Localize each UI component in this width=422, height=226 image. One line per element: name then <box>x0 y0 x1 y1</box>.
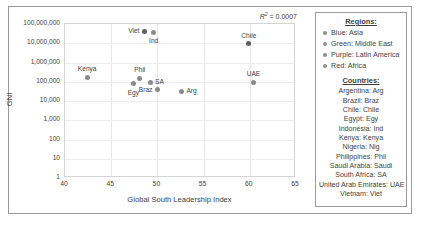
data-point[interactable] <box>142 29 147 34</box>
data-point-label: Arg <box>186 88 196 95</box>
gridline-horizontal <box>65 43 294 44</box>
y-tick-label: 100,000,000 <box>23 20 60 27</box>
y-tick-label: 100,000 <box>36 77 60 84</box>
scatter-chart: R2 = 0.0007 GNI 1101001,00010,000100,000… <box>9 7 305 213</box>
r-squared-annotation: R2 = 0.0007 <box>260 11 297 20</box>
legend-region-item: Green: Middle East <box>323 40 403 48</box>
legend-bullet-icon <box>323 42 327 46</box>
legend-country-item: Saudi Arabia: Saudi <box>319 162 403 171</box>
data-point-label: Ind <box>149 38 158 45</box>
legend-region-item: Purple: Latin America <box>323 51 403 59</box>
legend-country-item: South Africa: SA <box>319 171 403 180</box>
gridline-horizontal <box>65 63 294 64</box>
x-tick-label: 40 <box>60 181 68 188</box>
legend-region-item: Red: Africa <box>323 62 403 70</box>
y-tick-label: 1,000 <box>43 116 60 123</box>
y-axis-tick-labels: 1101001,00010,000100,0001,000,00010,000,… <box>9 23 60 177</box>
regions-heading: Regions: <box>319 17 403 26</box>
x-tick-label: 60 <box>245 181 253 188</box>
legend-region-label: Red: Africa <box>331 62 366 70</box>
legend-region-item: Blue: Asia <box>323 29 403 37</box>
legend-country-item: United Arab Emirates: UAE <box>319 181 403 190</box>
y-tick-label: 1,000,000 <box>31 58 60 65</box>
legend-region-label: Blue: Asia <box>331 29 363 37</box>
data-point[interactable] <box>179 89 184 94</box>
gridline-vertical <box>204 24 205 176</box>
countries-heading: Countries: <box>319 76 403 85</box>
data-point[interactable] <box>85 75 90 80</box>
plot-area: VietIndChileKenyaPhilSAEgyBrazArgUAE <box>64 23 295 177</box>
legend-bullet-icon <box>323 53 327 57</box>
x-tick-label: 65 <box>291 181 299 188</box>
legend-country-item: Kenya: Kenya <box>319 134 403 143</box>
gridline-vertical <box>157 24 158 176</box>
y-tick-label: 10 <box>53 154 60 161</box>
gridline-horizontal <box>65 120 294 121</box>
y-tick-label: 10,000 <box>40 97 60 104</box>
data-point-label: Kenya <box>78 66 97 73</box>
data-point[interactable] <box>131 81 136 86</box>
x-tick-label: 55 <box>199 181 207 188</box>
data-point-label: Chile <box>241 33 256 40</box>
y-tick-label: 100 <box>49 135 60 142</box>
countries-list: Argentina: ArgBrazil: BrazChile: ChileEg… <box>319 87 403 199</box>
data-point-label: Braz <box>139 87 153 94</box>
legend-region-label: Purple: Latin America <box>331 51 399 59</box>
regions-list: Blue: AsiaGreen: Middle EastPurple: Lati… <box>319 29 403 70</box>
x-tick-label: 50 <box>153 181 161 188</box>
data-point-label: Viet <box>128 28 139 35</box>
legend-country-item: Chile: Chile <box>319 106 403 115</box>
x-axis-tick-labels: 404550556065 <box>64 181 295 193</box>
data-point[interactable] <box>137 76 142 81</box>
legend-country-item: Argentina: Arg <box>319 87 403 96</box>
data-point[interactable] <box>251 80 256 85</box>
gridline-horizontal <box>65 140 294 141</box>
legend-country-item: Vietnam: Viet <box>319 190 403 199</box>
data-point[interactable] <box>151 30 156 35</box>
legend-country-item: Indonesia: Ind <box>319 125 403 134</box>
data-point-label: UAE <box>247 71 261 78</box>
data-point-label: SA <box>155 79 164 86</box>
data-point-label: Phil <box>134 67 145 74</box>
data-point-label: Egy <box>128 90 139 97</box>
legend-bullet-icon <box>323 64 327 68</box>
gridline-horizontal <box>65 159 294 160</box>
gridline-vertical <box>250 24 251 176</box>
y-tick-label: 10,000,000 <box>27 39 60 46</box>
gridline-horizontal <box>65 101 294 102</box>
gridline-vertical <box>111 24 112 176</box>
x-tick-label: 45 <box>106 181 114 188</box>
legend-country-item: Brazil: Braz <box>319 97 403 106</box>
legend-bullet-icon <box>323 31 327 35</box>
legend-country-item: Philippines: Phil <box>319 153 403 162</box>
figure-frame: R2 = 0.0007 GNI 1101001,00010,000100,000… <box>8 6 412 214</box>
gridline-horizontal <box>65 82 294 83</box>
x-axis-title: Global South Leadership Index <box>64 195 295 204</box>
legend-panel: Regions: Blue: AsiaGreen: Middle EastPur… <box>315 12 407 207</box>
legend-country-item: Egypt: Egy <box>319 115 403 124</box>
legend-region-label: Green: Middle East <box>331 40 393 48</box>
legend-country-item: Nigeria: Nig <box>319 143 403 152</box>
data-point[interactable] <box>148 80 153 85</box>
data-point[interactable] <box>155 87 160 92</box>
